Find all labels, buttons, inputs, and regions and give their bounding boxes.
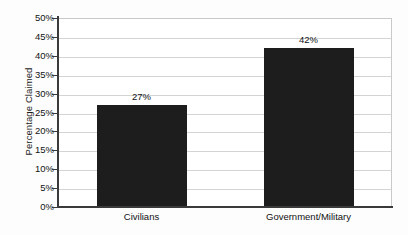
y-axis-tick-label: 0% (22, 202, 54, 212)
y-axis-tick-label: 30% (22, 89, 54, 99)
y-axis-tick-label: 10% (22, 164, 54, 174)
bar-chart-figure: Percentage Claimed 0%5%10%15%20%25%30%35… (0, 0, 408, 235)
bar-value-label: 42% (269, 34, 349, 45)
y-axis-tick-labels: 0%5%10%15%20%25%30%35%40%45%50% (22, 18, 54, 207)
y-axis-tick-label: 50% (22, 13, 54, 23)
bar-value-label: 27% (102, 91, 182, 102)
y-axis-tick-label: 5% (22, 183, 54, 193)
y-axis-tick-label: 35% (22, 70, 54, 80)
y-axis-tick-label: 15% (22, 145, 54, 155)
x-axis-category-label: Civilians (62, 211, 222, 222)
y-axis-line (57, 16, 59, 208)
x-axis-line (57, 206, 393, 208)
plot-area (58, 18, 392, 207)
y-axis-tick-label: 40% (22, 51, 54, 61)
y-axis-tick-label: 25% (22, 108, 54, 118)
y-axis-tick-label: 20% (22, 126, 54, 136)
y-axis-tick-label: 45% (22, 32, 54, 42)
bar (97, 105, 187, 207)
x-axis-category-label: Government/Military (229, 211, 389, 222)
bar (264, 48, 354, 207)
